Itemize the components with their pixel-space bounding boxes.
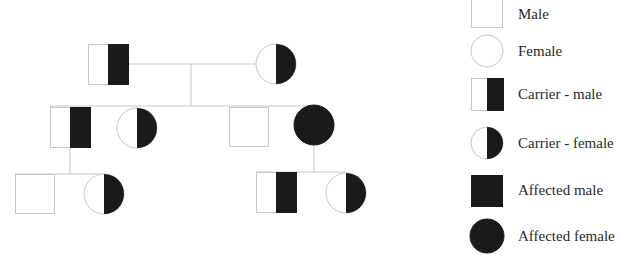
carrier-half-fill <box>104 174 124 214</box>
female-circle <box>470 219 504 253</box>
legend-label-female: Female <box>518 43 562 60</box>
legend-label-male: Male <box>518 6 549 23</box>
male-square <box>472 0 503 28</box>
legend-label-carrier-male: Carrier - male <box>518 86 602 103</box>
carrier-half-fill <box>276 44 296 84</box>
female-circle <box>294 105 334 145</box>
carrier-half-fill <box>487 78 504 111</box>
legend-symbol-unaffected-male <box>472 0 503 28</box>
individual-ii-1-carrier-male <box>51 107 92 148</box>
carrier-half-fill <box>487 127 503 159</box>
legend-symbol-carrier-male <box>472 78 505 111</box>
legend-label-carrier-female: Carrier - female <box>518 135 614 152</box>
legend-symbol-unaffected-female <box>471 35 503 67</box>
individual-ii-2-carrier-female <box>117 108 157 148</box>
carrier-half-fill <box>70 107 91 148</box>
legend-label-affected-female: Affected female <box>518 228 615 245</box>
legend-symbol-affected-female <box>470 219 504 253</box>
female-circle <box>471 35 503 67</box>
male-square <box>16 175 55 214</box>
individual-iii-4-carrier-female <box>326 173 366 213</box>
individual-i-2-carrier-female <box>256 44 296 84</box>
male-square <box>230 108 269 147</box>
individual-iii-2-carrier-female <box>84 174 124 214</box>
male-square <box>472 176 503 207</box>
carrier-half-fill <box>137 108 157 148</box>
legend-symbol-affected-male <box>472 176 503 207</box>
pedigree-diagram <box>0 0 628 264</box>
individual-iii-3-carrier-male <box>257 172 298 213</box>
legend-label-affected-male: Affected male <box>518 182 603 199</box>
individual-iii-1-unaffected-male <box>16 175 55 214</box>
legend-symbol-carrier-female <box>471 127 503 159</box>
individual-ii-4-affected-female <box>294 105 334 145</box>
carrier-half-fill <box>276 172 297 213</box>
individual-i-1-carrier-male <box>89 44 130 85</box>
carrier-half-fill <box>108 44 129 85</box>
individual-ii-3-unaffected-male <box>230 108 269 147</box>
carrier-half-fill <box>346 173 366 213</box>
